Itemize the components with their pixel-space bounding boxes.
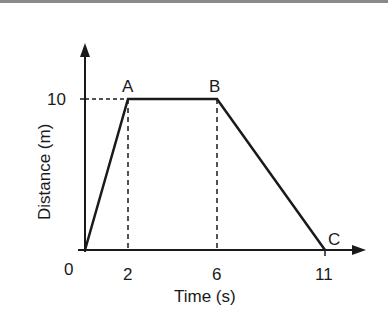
x-tick-label-6: 6	[212, 265, 221, 284]
y-axis-title: Distance (m)	[35, 124, 54, 220]
distance-time-graph: A B C 10 0 2 6 11 Time (s) Distance (m)	[0, 0, 388, 325]
point-label-b: B	[209, 77, 220, 96]
x-tick-label-2: 2	[123, 265, 132, 284]
x-axis-arrow-icon	[352, 245, 366, 255]
x-tick-label-11: 11	[315, 265, 333, 284]
point-label-a: A	[122, 77, 134, 96]
distance-series-line	[85, 99, 325, 250]
y-axis-arrow-icon	[80, 43, 90, 57]
x-axis-title: Time (s)	[174, 287, 236, 306]
y-tick-label-10: 10	[47, 90, 66, 109]
point-label-c: C	[328, 230, 340, 249]
origin-label: 0	[64, 260, 73, 279]
